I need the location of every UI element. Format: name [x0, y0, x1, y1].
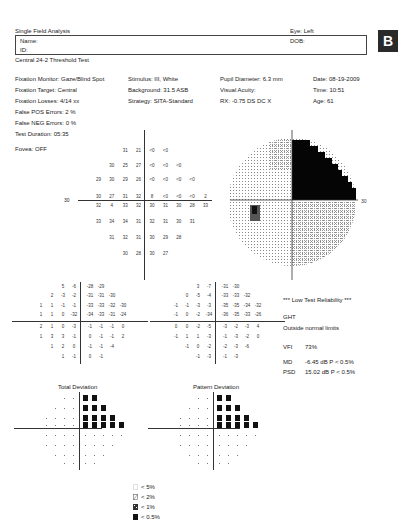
deviation-value: -3 — [202, 303, 216, 308]
threshold-value: 27 — [158, 251, 172, 256]
threshold-value: 29 — [118, 177, 132, 182]
threshold-value: 30 — [145, 203, 159, 208]
deviation-value: -30 — [229, 284, 243, 289]
threshold-value: <0 — [172, 194, 186, 199]
threshold-value: 27 — [132, 163, 146, 168]
greyscale-plot: 30 — [230, 130, 398, 280]
normal-point — [219, 455, 220, 456]
normal-point — [255, 435, 256, 436]
normal-point — [46, 425, 47, 426]
normal-point — [228, 445, 229, 446]
threshold-value: 33 — [118, 203, 132, 208]
threshold-value: 31 — [158, 203, 172, 208]
threshold-value: <0 — [172, 177, 186, 182]
normal-point — [64, 463, 65, 464]
p05-symbol — [92, 405, 97, 411]
deviation-value: -29 — [94, 284, 108, 289]
normal-point — [189, 408, 190, 409]
p05-symbol — [92, 415, 97, 421]
threshold-value: 2 — [199, 194, 213, 199]
p05-symbol — [226, 415, 231, 421]
p05-symbol — [226, 405, 231, 411]
normal-point — [198, 445, 199, 446]
threshold-value: 31 — [158, 219, 172, 224]
normal-point — [180, 425, 181, 426]
threshold-value: 30 — [91, 194, 105, 199]
reliability-warning: *** Low Test Reliability *** — [283, 297, 351, 304]
p05-symbol — [244, 422, 249, 428]
normal-point — [64, 425, 65, 426]
p05-symbol — [217, 395, 222, 401]
normal-point — [198, 455, 199, 456]
threshold-value: 25 — [118, 163, 132, 168]
normal-point — [55, 445, 56, 446]
normal-point — [180, 435, 181, 436]
deviation-value: 2 — [116, 334, 130, 339]
threshold-value: <0 — [158, 148, 172, 153]
normal-point — [46, 445, 47, 446]
deviation-value: -3 — [67, 324, 81, 329]
deviation-value: -2 — [67, 293, 81, 298]
p05-symbol — [226, 395, 231, 401]
deviation-value: -26 — [251, 312, 265, 317]
deviation-value: 0 — [251, 334, 265, 339]
p05-symbol — [101, 415, 106, 421]
normal-point — [73, 463, 74, 464]
p05-symbol — [92, 395, 97, 401]
threshold-value: 28 — [172, 235, 186, 240]
normal-point — [180, 445, 181, 446]
normal-point — [112, 435, 113, 436]
normal-point — [85, 445, 86, 446]
p05-symbol — [235, 422, 240, 428]
pdp-vertical-axis — [213, 392, 214, 470]
legend-label: < 5% — [141, 484, 155, 491]
threshold-value: <0 — [145, 177, 159, 182]
normal-point — [207, 408, 208, 409]
normal-point — [85, 435, 86, 436]
threshold-value: 32 — [91, 203, 105, 208]
tdp-vertical-axis — [79, 392, 80, 470]
deviation-value: -4 — [202, 293, 216, 298]
ght-label: GHT — [283, 314, 296, 321]
p05-symbol — [83, 415, 88, 421]
normal-point — [219, 445, 220, 446]
normal-point — [207, 445, 208, 446]
threshold-value: 30 — [145, 235, 159, 240]
normal-point — [228, 435, 229, 436]
normal-point — [55, 408, 56, 409]
normal-point — [228, 455, 229, 456]
md-value: -6.45 dB P < 0.5% — [305, 359, 354, 366]
normal-point — [189, 445, 190, 446]
ght-value: Outside normal limits — [283, 325, 339, 332]
deviation-value: -4 — [105, 344, 119, 349]
normal-point — [198, 408, 199, 409]
normal-point — [64, 398, 65, 399]
threshold-value: 31 — [132, 235, 146, 240]
p05-symbol — [217, 422, 222, 428]
threshold-value: 30 — [105, 163, 119, 168]
normal-point — [64, 418, 65, 419]
normal-point — [73, 435, 74, 436]
deviation-value: -32 — [251, 303, 265, 308]
normal-point — [207, 398, 208, 399]
axis-label-left: 30 — [64, 197, 70, 204]
normal-point — [46, 418, 47, 419]
deviation-value: -1 — [67, 303, 81, 308]
threshold-value: 34 — [118, 219, 132, 224]
normal-point — [237, 435, 238, 436]
p05-symbol — [101, 422, 106, 428]
normal-point — [237, 445, 238, 446]
normal-point — [73, 418, 74, 419]
p05-symbol — [217, 405, 222, 411]
normal-point — [64, 445, 65, 446]
pattern-deviation-probability-plot — [140, 390, 310, 470]
normal-point — [94, 463, 95, 464]
threshold-value: 30 — [172, 203, 186, 208]
deviation-value: -6 — [240, 344, 254, 349]
normal-point — [55, 435, 56, 436]
normal-point — [64, 435, 65, 436]
normal-point — [73, 398, 74, 399]
p05-symbol — [83, 405, 88, 411]
deviation-value: -24 — [116, 312, 130, 317]
normal-point — [103, 455, 104, 456]
